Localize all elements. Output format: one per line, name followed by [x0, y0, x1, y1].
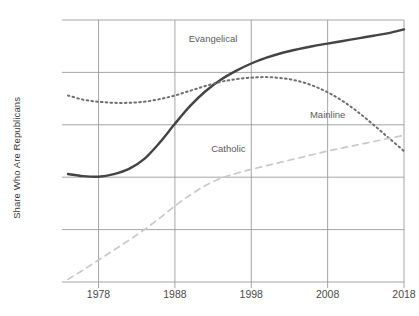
series-line-mainline — [68, 77, 404, 151]
series-label-evangelical: Evangelical — [189, 33, 238, 44]
series-line-evangelical — [68, 29, 404, 176]
series-line-catholic — [68, 135, 404, 279]
series-label-mainline: Mainline — [310, 109, 345, 120]
series-label-catholic: Catholic — [211, 143, 245, 154]
chart-container: Share Who Are Republicans 20%30%40%50%60… — [0, 0, 419, 316]
plot-area — [0, 0, 419, 316]
